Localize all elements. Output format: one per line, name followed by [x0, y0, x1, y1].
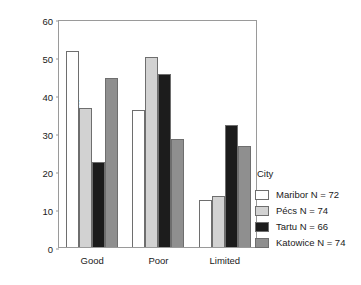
- legend-label: Maribor N = 72: [276, 189, 339, 200]
- bar: [225, 125, 238, 247]
- bar: [199, 200, 212, 248]
- bar: [145, 57, 158, 247]
- legend-swatch: [255, 238, 269, 248]
- legend-items: Maribor N = 72Pécs N = 74Tartu N = 66Kat…: [255, 187, 361, 250]
- bar: [238, 146, 251, 247]
- y-tick-label: 60: [29, 16, 53, 27]
- legend-swatch: [255, 206, 269, 216]
- legend-title: City: [255, 168, 361, 179]
- y-tick-label: 20: [29, 168, 53, 179]
- legend-item[interactable]: Katowice N = 74: [255, 235, 361, 250]
- bar: [132, 110, 145, 247]
- bar: [212, 196, 225, 247]
- bar-group: [59, 21, 125, 247]
- bar: [92, 162, 105, 248]
- legend-swatch: [255, 190, 269, 200]
- legend-label: Pécs N = 74: [276, 205, 328, 216]
- bar-chart-figure: Per cent 0102030405060 GoodPoorLimited C…: [0, 0, 361, 285]
- legend-item[interactable]: Maribor N = 72: [255, 187, 361, 202]
- bar: [79, 108, 92, 247]
- x-tick-label: Limited: [185, 255, 265, 266]
- y-tick-label: 40: [29, 92, 53, 103]
- bar: [158, 74, 171, 247]
- plot-area: Per cent 0102030405060 GoodPoorLimited: [58, 20, 257, 248]
- y-tick-label: 0: [29, 244, 53, 255]
- legend-label: Tartu N = 66: [276, 221, 328, 232]
- y-tick-mark: [56, 249, 59, 250]
- bar-group: [125, 21, 191, 247]
- legend-item[interactable]: Pécs N = 74: [255, 203, 361, 218]
- bar: [66, 51, 79, 247]
- legend-swatch: [255, 222, 269, 232]
- legend-item[interactable]: Tartu N = 66: [255, 219, 361, 234]
- bar-group: [192, 21, 258, 247]
- bar: [171, 139, 184, 247]
- y-tick-label: 10: [29, 206, 53, 217]
- bar-groups: [59, 21, 256, 247]
- y-tick-label: 50: [29, 54, 53, 65]
- y-tick-label: 30: [29, 130, 53, 141]
- bar: [105, 78, 118, 247]
- legend: City Maribor N = 72Pécs N = 74Tartu N = …: [255, 168, 361, 251]
- legend-label: Katowice N = 74: [276, 237, 345, 248]
